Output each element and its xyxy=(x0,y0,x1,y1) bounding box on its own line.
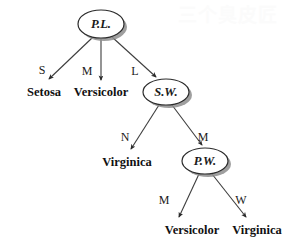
node-sw-label: S.W. xyxy=(154,85,177,99)
leaf-versicolor-bottom: Versicolor xyxy=(165,223,220,237)
edge-pw-versicolor xyxy=(179,174,199,217)
node-root: P.L. xyxy=(78,10,127,41)
edge-label-m-pw: M xyxy=(159,193,170,207)
edges-group xyxy=(49,37,246,217)
decision-tree-figure: 三个臭皮匠 S M L N M M W Setosa Versicolor Vi… xyxy=(0,0,291,247)
node-pw-label: P.W. xyxy=(194,154,216,168)
node-pw: P.W. xyxy=(182,148,231,177)
edge-label-w: W xyxy=(235,193,247,207)
watermark-text: 三个臭皮匠 xyxy=(178,4,278,26)
edge-label-m-sw: M xyxy=(198,130,209,144)
leaf-virginica-mid: Virginica xyxy=(102,155,152,169)
node-sw: S.W. xyxy=(143,79,192,108)
edge-sw-virginica xyxy=(131,105,159,149)
edge-label-n: N xyxy=(121,130,130,144)
leaf-versicolor-top: Versicolor xyxy=(74,85,129,99)
edge-label-l: L xyxy=(131,64,138,78)
edge-label-s: S xyxy=(39,63,46,77)
tree-canvas: 三个臭皮匠 S M L N M M W Setosa Versicolor Vi… xyxy=(0,0,291,247)
leaf-virginica-bottom: Virginica xyxy=(232,223,282,237)
edge-labels-group: S M L N M M W xyxy=(39,63,248,207)
leaf-setosa: Setosa xyxy=(27,85,62,99)
edge-label-m-root: M xyxy=(82,64,93,78)
node-root-label: P.L. xyxy=(91,17,111,31)
